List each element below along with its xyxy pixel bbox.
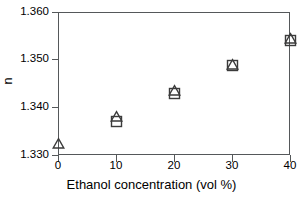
- y-axis-title: n: [1, 78, 15, 85]
- chart-screenshot: 1.360 1.350 1.340 1.330 0 10 20 30 40 n …: [0, 0, 303, 203]
- y-tick-label: 1.350: [1, 53, 49, 65]
- y-tick-mark: [52, 12, 59, 13]
- y-tick-mark: [52, 59, 59, 60]
- data-point-open-square: [168, 87, 181, 100]
- x-tick-label: 40: [270, 160, 303, 172]
- y-tick-mark: [52, 107, 59, 108]
- data-point-open-triangle: [52, 137, 65, 150]
- data-point-open-square: [284, 34, 297, 47]
- y-tick-label: 1.340: [1, 101, 49, 113]
- x-tick-label: 30: [212, 160, 252, 172]
- y-tick-label: 1.360: [1, 6, 49, 18]
- data-point-open-square: [226, 59, 239, 72]
- x-tick-label: 20: [154, 160, 194, 172]
- data-point-open-square: [110, 115, 123, 128]
- x-tick-label: 0: [38, 160, 78, 172]
- x-tick-label: 10: [96, 160, 136, 172]
- x-axis-title: Ethanol concentration (vol %): [0, 177, 303, 192]
- y-tick-label: 1.330: [1, 149, 49, 161]
